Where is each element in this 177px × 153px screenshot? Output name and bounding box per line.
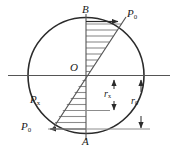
label-pressure-bottom: P0: [21, 121, 31, 133]
label-radius-0: r0: [131, 96, 138, 107]
label-origin-o: O: [70, 62, 78, 73]
label-point-a: A: [82, 136, 89, 147]
pressure-distribution-line: [52, 17, 126, 130]
pressure-distribution-figure: B P0 O Px rx r0 P0 A: [0, 0, 177, 153]
label-pressure-top: P0: [127, 8, 137, 20]
label-pressure-top-base: P: [127, 7, 134, 19]
label-radius-x: rx: [104, 89, 111, 100]
label-pressure-x-base: P: [30, 93, 37, 105]
label-pressure-top-sub: 0: [134, 13, 137, 20]
label-radius-0-sub: 0: [135, 99, 138, 106]
label-pressure-bottom-sub: 0: [28, 126, 31, 133]
label-pressure-x-sub: x: [37, 99, 40, 106]
label-radius-x-sub: x: [108, 92, 111, 99]
label-pressure-x: Px: [30, 94, 40, 106]
label-point-b: B: [82, 4, 89, 15]
label-pressure-bottom-base: P: [21, 120, 28, 132]
hatch-lines-upper: [86, 24, 121, 72]
